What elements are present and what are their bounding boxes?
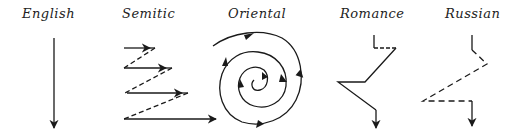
semitic-diagram	[124, 48, 216, 119]
romance-diagram	[338, 35, 396, 128]
oriental-diagram	[213, 32, 305, 128]
russian-diagram	[423, 35, 487, 126]
diagram-canvas	[0, 0, 525, 135]
